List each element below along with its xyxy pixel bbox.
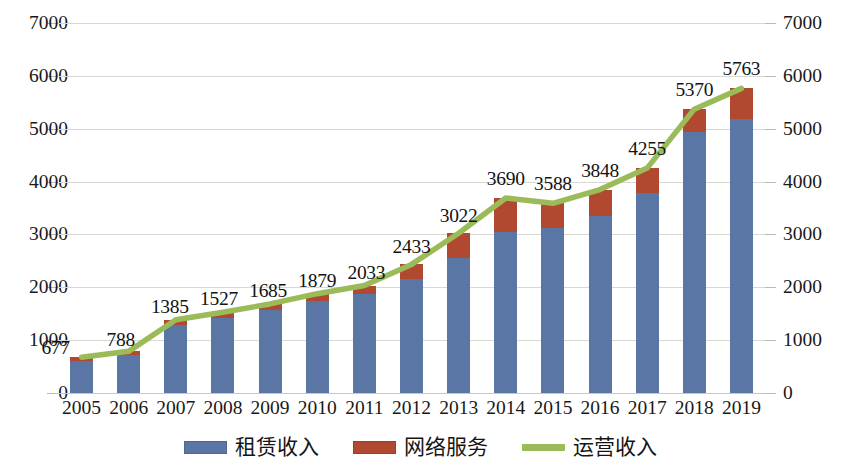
bar-segment-rental-income (259, 310, 282, 393)
y-tick-mark-right (765, 234, 776, 235)
x-tick-label-2005: 2005 (58, 398, 105, 418)
x-tick-label-2018: 2018 (671, 398, 718, 418)
y-tick-label-right: 6000 (783, 66, 822, 86)
y-tick-mark-right (765, 340, 776, 341)
x-tick-label-2011: 2011 (341, 398, 388, 418)
y-tick-label-right: 5000 (783, 119, 822, 139)
data-label-2016: 3848 (570, 161, 630, 181)
x-tick-label-2016: 2016 (576, 398, 623, 418)
gridline (58, 393, 765, 394)
bar-2010[interactable] (306, 294, 329, 393)
bar-2009[interactable] (259, 304, 282, 393)
bar-segment-rental-income (541, 228, 564, 393)
y-tick-mark-right (765, 23, 776, 24)
chart-legend: 租赁收入 网络服务 运营收入 (0, 437, 841, 458)
bar-segment-rental-income (730, 119, 753, 393)
bar-2008[interactable] (211, 312, 234, 393)
data-label-2013: 3022 (429, 206, 489, 226)
y-tick-mark-left (47, 393, 58, 394)
y-tick-mark-right (765, 129, 776, 130)
x-tick-label-2015: 2015 (529, 398, 576, 418)
bar-segment-network-service (353, 286, 376, 294)
data-label-2005: 677 (26, 338, 86, 358)
bar-segment-network-service (636, 168, 659, 193)
legend-item-network-service[interactable]: 网络服务 (353, 437, 488, 458)
bar-segment-rental-income (211, 318, 234, 393)
bar-segment-rental-income (636, 193, 659, 393)
bar-segment-network-service (447, 233, 470, 258)
y-tick-label-right: 4000 (783, 172, 822, 192)
bar-segment-rental-income (683, 132, 706, 393)
bar-segment-rental-income (164, 325, 187, 393)
bar-segment-rental-income (589, 216, 612, 393)
legend-item-rental-income[interactable]: 租赁收入 (184, 437, 319, 458)
bar-segment-network-service (683, 109, 706, 132)
x-tick-label-2012: 2012 (388, 398, 435, 418)
bar-2013[interactable] (447, 233, 470, 393)
bar-2012[interactable] (400, 264, 423, 393)
bar-segment-rental-income (447, 258, 470, 393)
x-tick-label-2014: 2014 (482, 398, 529, 418)
bar-segment-network-service (400, 264, 423, 279)
bar-2016[interactable] (589, 190, 612, 393)
y-tick-label-right: 1000 (783, 330, 822, 350)
data-label-2018: 5370 (664, 80, 724, 100)
y-tick-label-right: 3000 (783, 224, 822, 244)
y-tick-label-right: 0 (783, 383, 793, 403)
bar-2007[interactable] (164, 320, 187, 393)
x-tick-label-2008: 2008 (199, 398, 246, 418)
bar-segment-rental-income (400, 279, 423, 393)
bar-segment-network-service (730, 88, 753, 119)
bar-2017[interactable] (636, 168, 659, 393)
legend-label-network-service: 网络服务 (404, 437, 488, 458)
x-tick-label-2010: 2010 (294, 398, 341, 418)
x-tick-label-2007: 2007 (152, 398, 199, 418)
bar-segment-rental-income (353, 294, 376, 393)
y-tick-label-right: 7000 (783, 13, 822, 33)
bar-segment-rental-income (494, 232, 517, 393)
gridline (58, 23, 765, 24)
x-tick-label-2019: 2019 (718, 398, 765, 418)
bar-2005[interactable] (70, 357, 93, 393)
bar-segment-rental-income (117, 355, 140, 393)
x-tick-label-2017: 2017 (624, 398, 671, 418)
legend-label-operating-revenue: 运营收入 (573, 437, 657, 458)
gridline (58, 76, 765, 77)
x-tick-label-2006: 2006 (105, 398, 152, 418)
y-tick-label-right: 2000 (783, 277, 822, 297)
gridline (58, 234, 765, 235)
legend-swatch-network-service (353, 441, 396, 454)
chart-container: 01000200030004000500060007000 0100020003… (0, 0, 841, 469)
y-tick-mark-right (765, 287, 776, 288)
y-tick-mark-right (765, 182, 776, 183)
bar-2014[interactable] (494, 198, 517, 393)
gridline (58, 129, 765, 130)
gridline (58, 182, 765, 183)
plot-area (58, 23, 765, 393)
y-tick-mark-right (765, 393, 776, 394)
bar-2006[interactable] (117, 351, 140, 393)
bar-segment-rental-income (70, 361, 93, 393)
data-label-2019: 5763 (711, 59, 771, 79)
legend-swatch-rental-income (184, 441, 227, 454)
bar-segment-network-service (494, 198, 517, 232)
bar-segment-network-service (541, 203, 564, 228)
bar-segment-network-service (589, 190, 612, 216)
legend-swatch-operating-revenue (522, 444, 565, 451)
data-label-2012: 2433 (382, 237, 442, 257)
bar-2011[interactable] (353, 286, 376, 393)
legend-item-operating-revenue[interactable]: 运营收入 (522, 437, 657, 458)
x-tick-label-2009: 2009 (247, 398, 294, 418)
data-label-2017: 4255 (617, 139, 677, 159)
bar-2018[interactable] (683, 109, 706, 393)
bar-segment-rental-income (306, 301, 329, 393)
bar-segment-network-service (306, 294, 329, 301)
x-tick-label-2013: 2013 (435, 398, 482, 418)
legend-label-rental-income: 租赁收入 (235, 437, 319, 458)
data-label-2011: 2033 (336, 263, 396, 283)
bar-2015[interactable] (541, 203, 564, 393)
bar-2019[interactable] (730, 88, 753, 393)
data-label-2006: 788 (91, 330, 151, 350)
